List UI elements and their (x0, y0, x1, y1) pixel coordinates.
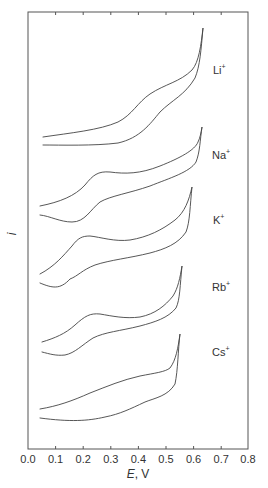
y-axis-label: i (5, 232, 19, 235)
label-na-charge: + (226, 148, 230, 155)
x-axis-label: E, V (127, 467, 150, 481)
curve-k (40, 187, 192, 287)
x-axis-unit: , V (135, 467, 150, 481)
label-li-charge: + (222, 63, 226, 70)
x-tick-label: 0.2 (76, 453, 91, 465)
cyclic-voltammogram-chart: 0.0 0.1 0.2 0.3 0.4 0.5 0.6 0.7 0.8 E, V… (0, 0, 268, 488)
curve-na (40, 127, 202, 222)
curve-li (43, 28, 203, 145)
x-tick-label: 0.7 (214, 453, 229, 465)
x-tick-label: 0.4 (131, 453, 146, 465)
x-tick-label: 0.8 (240, 453, 255, 465)
x-tick-label: 0.1 (48, 453, 63, 465)
label-rb-ion: Rb (212, 281, 226, 293)
x-tick-label: 0.0 (20, 453, 35, 465)
plot-frame (28, 12, 248, 449)
x-tick-label: 0.3 (103, 453, 118, 465)
label-li: Li+ (213, 63, 226, 76)
x-tick-labels: 0.0 0.1 0.2 0.3 0.4 0.5 0.6 0.7 0.8 (20, 453, 255, 465)
curve-rb (42, 266, 182, 355)
label-cs-charge: + (225, 345, 229, 352)
label-k: K+ (213, 213, 224, 226)
label-k-charge: + (220, 213, 224, 220)
label-rb-charge: + (226, 280, 230, 287)
label-cs: Cs+ (212, 345, 230, 358)
label-li-ion: Li (213, 64, 222, 76)
curve-cs (40, 334, 180, 421)
x-tick-label: 0.6 (186, 453, 201, 465)
label-na: Na+ (212, 148, 230, 161)
label-rb: Rb+ (212, 280, 230, 293)
x-tick-label: 0.5 (158, 453, 173, 465)
label-cs-ion: Cs (212, 346, 226, 358)
label-na-ion: Na (212, 149, 227, 161)
